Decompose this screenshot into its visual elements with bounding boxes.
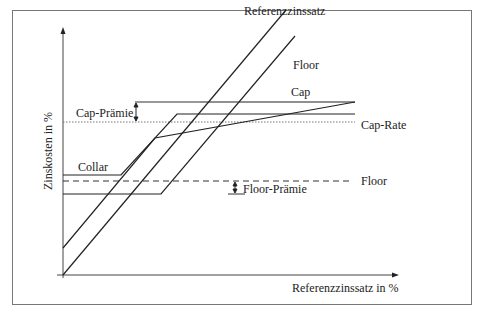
axes — [57, 30, 396, 278]
referenzzinssatz-line — [63, 10, 286, 275]
cap-line-label: Cap — [291, 85, 310, 99]
diagram-frame — [13, 11, 472, 305]
floor-premium-arrow-icon — [233, 182, 237, 193]
y-axis-arrow-icon — [61, 27, 66, 34]
cap-praemie-label: Cap-Prämie — [76, 106, 133, 120]
cap-premium-arrow-icon — [134, 103, 138, 121]
referenzzinssatz-label: Referenzzinssatz — [244, 4, 325, 18]
floor-praemie-label: Floor-Prämie — [243, 182, 307, 196]
cap-floor-collar-diagram: Zinskosten in % Referenzzinssatz in % Re… — [0, 0, 486, 313]
floor-line-label: Floor — [293, 58, 319, 72]
floor-level-label: Floor — [361, 174, 387, 188]
x-axis-arrow-icon — [392, 273, 399, 278]
y-axis-label: Zinskosten in % — [41, 112, 55, 190]
cap-rate-label: Cap-Rate — [361, 118, 406, 132]
collar-label: Collar — [78, 160, 108, 174]
x-axis-label: Referenzzinssatz in % — [292, 281, 399, 295]
